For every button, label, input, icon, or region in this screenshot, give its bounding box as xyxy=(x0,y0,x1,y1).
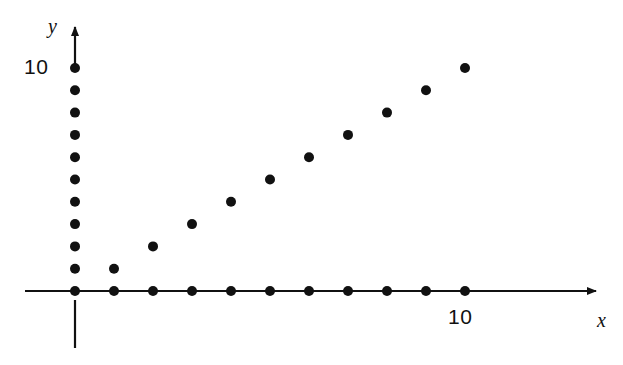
data-point xyxy=(265,286,275,296)
data-point xyxy=(304,152,314,162)
graph-figure: y x 10 10 xyxy=(0,0,623,365)
data-point xyxy=(70,85,80,95)
plot-canvas xyxy=(0,0,623,365)
axis-lines-group xyxy=(25,27,596,348)
data-point xyxy=(343,130,353,140)
data-point xyxy=(70,130,80,140)
data-point xyxy=(226,197,236,207)
data-point xyxy=(70,219,80,229)
data-point xyxy=(343,286,353,296)
data-point xyxy=(70,241,80,251)
data-point xyxy=(109,286,119,296)
x-axis-label: x xyxy=(597,310,606,330)
data-point xyxy=(460,286,470,296)
data-point xyxy=(382,286,392,296)
x-axis-tick-label-10: 10 xyxy=(448,306,472,327)
data-point xyxy=(70,152,80,162)
y-axis-tick-label-10: 10 xyxy=(24,56,48,77)
data-point xyxy=(187,286,197,296)
data-point xyxy=(226,286,236,296)
data-point xyxy=(382,108,392,118)
data-point xyxy=(70,108,80,118)
data-point xyxy=(460,63,470,73)
y-axis-label: y xyxy=(48,16,57,36)
data-point xyxy=(109,264,119,274)
data-point xyxy=(421,286,431,296)
data-point xyxy=(70,63,80,73)
data-point xyxy=(70,286,80,296)
data-point xyxy=(70,175,80,185)
data-point xyxy=(265,175,275,185)
data-point xyxy=(70,197,80,207)
data-point xyxy=(421,85,431,95)
data-point xyxy=(187,219,197,229)
data-point xyxy=(70,264,80,274)
data-point xyxy=(304,286,314,296)
data-point xyxy=(148,241,158,251)
data-points-group xyxy=(70,63,470,296)
data-point xyxy=(148,286,158,296)
